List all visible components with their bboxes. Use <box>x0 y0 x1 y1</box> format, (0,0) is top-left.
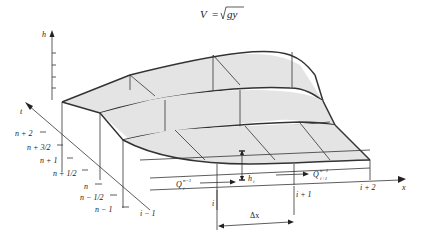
dx-dimension: Δx <box>218 211 294 229</box>
arrow-right-icon <box>303 172 309 177</box>
x-axis-label: x <box>401 183 406 192</box>
time-label-n-plus-2: n + 2 <box>15 129 32 138</box>
time-level-labels: n + 2 n + 3/2 n + 1 n + 1/2 n n − 1/2 n … <box>15 129 129 214</box>
node-label-i: i <box>212 199 214 208</box>
svg-text:n−1: n−1 <box>183 178 191 183</box>
svg-text:i+1: i+1 <box>320 176 327 181</box>
node-label-i-minus-1: i − 1 <box>140 209 156 218</box>
arrow-right-icon <box>230 180 236 185</box>
diagram-root: V = gy h t x n + 2 n + 3/2 n + 1 n + 1/2… <box>0 0 423 242</box>
arrow-right-icon <box>398 176 406 183</box>
time-label-n-plus-3-2: n + 3/2 <box>27 143 51 152</box>
dx-label: Δx <box>250 211 259 220</box>
flux-left: Q n−1 i <box>176 178 236 191</box>
node-label-i-plus-1: i + 1 <box>296 190 312 199</box>
arrow-up-icon <box>50 30 55 37</box>
time-label-n-minus-1: n − 1 <box>95 205 112 214</box>
equation-equals: = <box>212 8 218 20</box>
t-axis-label: t <box>20 107 23 116</box>
staggered-grid-diagram: V = gy h t x n + 2 n + 3/2 n + 1 n + 1/2… <box>0 0 423 242</box>
node-lines <box>217 186 294 230</box>
flux-right-label: Q <box>313 170 319 179</box>
depth-label: h <box>248 174 252 183</box>
surface-front <box>123 123 370 210</box>
flux-right: Q n−1 i+1 <box>276 168 328 181</box>
time-label-n-plus-1: n + 1 <box>40 156 57 165</box>
h-axis: h <box>42 30 56 100</box>
h-axis-label: h <box>42 30 46 39</box>
arrow-t-icon <box>25 102 33 110</box>
equation-lhs: V <box>200 8 208 20</box>
title-equation: V = gy <box>200 7 244 20</box>
flux-left-label: Q <box>176 180 182 189</box>
equation-rhs: gy <box>227 8 238 20</box>
node-label-i-plus-2: i + 2 <box>360 183 376 192</box>
svg-text:n−1: n−1 <box>320 168 328 173</box>
time-label-n-plus-1-2: n + 1/2 <box>53 169 77 178</box>
time-label-n: n <box>84 182 88 191</box>
svg-text:i: i <box>253 179 255 184</box>
time-label-n-minus-1-2: n − 1/2 <box>80 193 104 202</box>
